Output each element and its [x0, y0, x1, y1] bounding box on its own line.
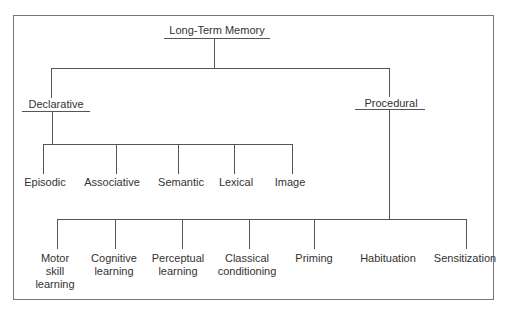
root-branch-bar: [51, 68, 390, 69]
procedural-underline: [355, 109, 425, 110]
node-priming: Priming: [295, 252, 332, 265]
root-stem: [214, 38, 215, 69]
node-image: Image: [275, 176, 306, 189]
node-episodic: Episodic: [24, 176, 66, 189]
node-perceptual-learning: Perceptual learning: [152, 252, 205, 278]
episodic-connector: [43, 144, 44, 174]
node-sensitization: Sensitization: [434, 252, 496, 265]
procedural-connector: [389, 68, 390, 97]
priming-connector: [314, 219, 315, 249]
semantic-connector: [178, 144, 179, 174]
node-habituation: Habituation: [360, 252, 416, 265]
associative-connector: [116, 144, 117, 174]
declarative-stem: [52, 111, 53, 144]
root-label: Long-Term Memory: [169, 24, 264, 37]
classical-connector: [249, 219, 250, 249]
declarative-underline: [22, 111, 90, 112]
image-connector: [292, 144, 293, 174]
procedural-children-bar: [57, 219, 467, 220]
node-classical-conditioning: Classical conditioning: [218, 252, 277, 278]
node-lexical: Lexical: [219, 176, 253, 189]
cognitive-connector: [115, 219, 116, 249]
sensitization-connector: [466, 219, 467, 249]
declarative-children-bar: [43, 144, 293, 145]
node-associative: Associative: [84, 176, 140, 189]
node-cognitive-learning: Cognitive learning: [91, 252, 137, 278]
node-motor-skill-learning: Motor skill learning: [35, 252, 74, 291]
root-underline: [164, 38, 270, 39]
procedural-stem: [389, 109, 390, 219]
perceptual-connector: [182, 219, 183, 249]
node-semantic: Semantic: [158, 176, 204, 189]
declarative-connector: [51, 68, 52, 98]
lexical-connector: [234, 144, 235, 174]
motor-connector: [57, 219, 58, 249]
declarative-label: Declarative: [28, 98, 83, 111]
